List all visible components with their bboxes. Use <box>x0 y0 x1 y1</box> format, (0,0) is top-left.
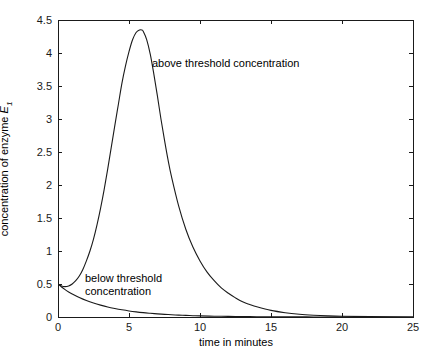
y-axis-label-prefix: concentration of enzyme <box>0 113 10 236</box>
enzyme-concentration-figure: 00.511.522.533.544.5 0510152025 time in … <box>0 0 444 357</box>
x-tick-label: 20 <box>336 321 348 333</box>
annotation-above-threshold: above threshold concentration <box>152 57 299 70</box>
y-tick-label: 4 <box>0 47 52 59</box>
x-tick-label: 25 <box>407 321 419 333</box>
y-axis-label: concentration of enzyme E1 <box>0 69 14 269</box>
y-axis-label-subscript: 1 <box>5 102 14 106</box>
x-axis-label: time in minutes <box>199 336 273 348</box>
y-tick-label: 4.5 <box>0 14 52 26</box>
x-tick-label: 10 <box>194 321 206 333</box>
y-tick-label: 0 <box>0 311 52 323</box>
x-tick-label: 15 <box>265 321 277 333</box>
y-axis-label-symbol: E <box>0 106 10 113</box>
annotation-below-threshold: below threshold concentration <box>85 272 162 298</box>
y-tick-label: 0.5 <box>0 278 52 290</box>
plot-canvas <box>0 0 444 357</box>
x-tick-label: 0 <box>55 321 61 333</box>
x-tick-label: 5 <box>126 321 132 333</box>
